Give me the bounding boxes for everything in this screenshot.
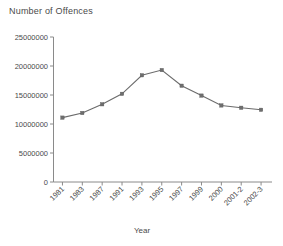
x-tick-label: 2001-2	[222, 185, 245, 208]
y-tick-label: 15000000	[15, 91, 48, 100]
x-tick-label: 1991	[107, 185, 125, 203]
x-axis: 1981198319871991199319951997199920002001…	[48, 182, 272, 207]
x-tick-label: 1983	[68, 185, 86, 203]
y-tick-label: 25000000	[15, 33, 48, 42]
x-tick-label: 1999	[187, 185, 205, 203]
data-point-marker	[240, 106, 243, 109]
y-tick-label: 5000000	[19, 149, 48, 158]
x-tick-label: 2002-3	[242, 185, 265, 208]
data-point-marker	[61, 116, 64, 119]
data-point-marker	[220, 104, 223, 107]
x-tick-label: 1997	[167, 185, 185, 203]
data-series	[61, 68, 263, 119]
data-point-marker	[259, 108, 262, 111]
data-point-marker	[180, 84, 183, 87]
y-axis: 0500000010000000150000002000000025000000	[15, 33, 54, 187]
x-tick-label: 1981	[48, 185, 66, 203]
x-tick-label: 1995	[147, 185, 165, 203]
chart-figure: Number of Offences 050000001000000015000…	[0, 0, 283, 246]
x-tick-label: 1987	[88, 185, 106, 203]
data-point-marker	[200, 94, 203, 97]
data-point-marker	[100, 103, 103, 106]
x-tick-label: 1993	[127, 185, 145, 203]
data-point-marker	[160, 68, 163, 71]
data-point-marker	[140, 74, 143, 77]
line-chart-plot: 0500000010000000150000002000000025000000…	[0, 0, 283, 246]
y-tick-label: 20000000	[15, 62, 48, 71]
x-axis-title: Year	[134, 226, 150, 235]
series-line	[62, 70, 261, 118]
data-point-marker	[81, 111, 84, 114]
data-point-marker	[120, 92, 123, 95]
y-tick-label: 10000000	[15, 120, 48, 129]
y-tick-label: 0	[44, 178, 48, 187]
